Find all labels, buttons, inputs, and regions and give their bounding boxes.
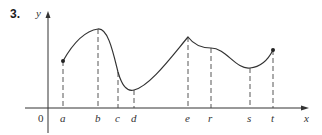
tick-label-d: d <box>131 112 137 124</box>
tick-label-t: t <box>271 112 275 124</box>
tick-label-e: e <box>185 112 190 124</box>
endpoint-a-dot <box>61 59 65 63</box>
tick-label-r: r <box>208 112 213 124</box>
tick-label-s: s <box>247 112 251 124</box>
graph-figure: 3. y x 0 a b c d e r s t <box>0 0 322 135</box>
tick-label-c: c <box>115 112 120 124</box>
y-axis-label: y <box>35 7 41 19</box>
tick-label-b: b <box>95 112 101 124</box>
dashed-guides <box>63 29 273 108</box>
problem-number: 3. <box>10 7 20 21</box>
endpoint-t-dot <box>271 48 275 52</box>
tick-label-a: a <box>60 112 66 124</box>
function-curve <box>63 29 273 90</box>
y-axis-arrow-icon <box>46 11 51 18</box>
x-axis-label: x <box>303 112 309 124</box>
origin-label: 0 <box>38 112 44 124</box>
x-axis-arrow-icon <box>301 106 309 111</box>
